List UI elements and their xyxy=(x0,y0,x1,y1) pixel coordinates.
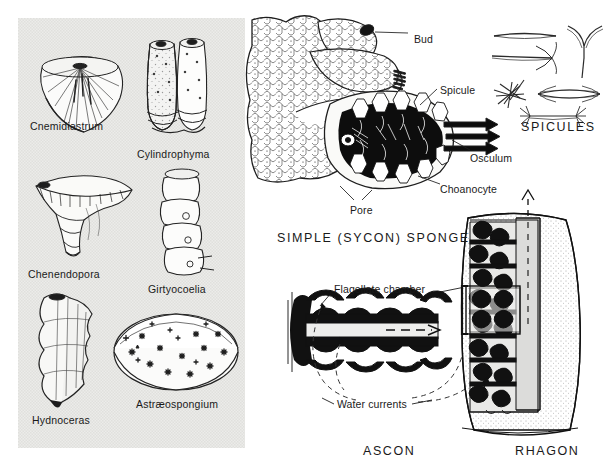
sycon-panel-caption: SIMPLE (SYCON) SPONGE xyxy=(277,231,470,245)
specimen-label-chenendopora: Chenendopora xyxy=(28,268,100,280)
specimen-label-girtyocoelia: Girtyocoelia xyxy=(148,283,206,295)
rhagon-panel-caption: RHAGON xyxy=(515,444,579,458)
ascon-panel-caption: ASCON xyxy=(363,444,415,458)
spicules-drawing xyxy=(492,26,603,126)
sycon-sponge-drawing xyxy=(246,16,500,200)
callout-label-water-currents: Water currents xyxy=(337,398,407,410)
spicules-panel-caption: SPICULES xyxy=(521,120,596,134)
spicule-spindle-bundle xyxy=(538,86,600,102)
callout-label-osculum: Osculum xyxy=(470,152,512,164)
callout-label-bud: Bud xyxy=(414,33,433,45)
specimen-label-cylindrophyma: Cylindrophyma xyxy=(137,148,210,160)
specimen-label-astraeospongium: Astræospongium xyxy=(136,398,218,410)
callout-label-flagellate-chamber: Flagellate chamber xyxy=(334,283,425,295)
sycon-cutaway xyxy=(324,91,500,189)
callout-label-choanocyte: Choanocyte xyxy=(440,183,497,195)
spicule-simple-rod xyxy=(494,34,556,39)
spicule-hooked-anchor xyxy=(492,42,557,74)
callout-label-pore: Pore xyxy=(350,204,373,216)
specimen-label-cnemidiastrum: Cnemidiastrum xyxy=(30,120,103,132)
specimen-astraeospongium xyxy=(114,314,238,390)
rhagon-drawing xyxy=(455,190,595,440)
spicule-star-aster xyxy=(494,80,526,108)
callout-label-spicule: Spicule xyxy=(440,84,475,96)
specimen-label-hydnoceras: Hydnoceras xyxy=(32,414,90,426)
spicule-triaxon-y xyxy=(567,26,603,78)
